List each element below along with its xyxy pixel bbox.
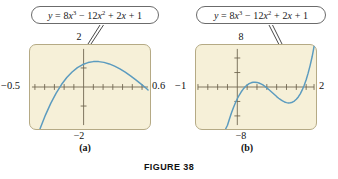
axis-label-top-b: 8 xyxy=(239,31,244,42)
curve-b xyxy=(226,46,314,129)
equation-callout-a: y = 8x3 − 12x2 + 2x + 1 xyxy=(31,6,159,24)
axis-label-top-a: 2 xyxy=(77,31,82,42)
equation-label-b: y = 8x3 − 12x2 + 2x + 1 xyxy=(214,10,308,21)
axis-label-left-a: −0.5 xyxy=(1,80,20,91)
sub-caption-b: (b) xyxy=(241,142,253,153)
calculator-screen-a xyxy=(29,44,151,130)
axis-label-bottom-b: −8 xyxy=(236,130,247,141)
figure-caption: FIGURE 38 xyxy=(144,162,194,172)
sub-caption-a: (a) xyxy=(79,142,91,153)
axis-label-right-a: 0.6 xyxy=(152,80,165,91)
figure-38: y = 8x3 − 12x2 + 2x + 1 xyxy=(0,0,338,179)
curve-a xyxy=(32,62,148,129)
equation-callout-b: y = 8x3 − 12x2 + 2x + 1 xyxy=(196,6,326,24)
calculator-screen-b xyxy=(195,44,317,130)
plot-a xyxy=(30,45,150,129)
axis-label-bottom-a: −2 xyxy=(74,130,85,141)
axis-label-left-b: −1 xyxy=(175,80,186,91)
equation-label-a: y = 8x3 − 12x2 + 2x + 1 xyxy=(48,10,142,21)
figure-panel-a: y = 8x3 − 12x2 + 2x + 1 xyxy=(0,0,169,160)
figure-panel-b: y = 8x3 − 12x2 + 2x + 1 xyxy=(169,0,338,160)
axis-label-right-b: 2 xyxy=(319,80,324,91)
plot-b xyxy=(196,45,316,129)
